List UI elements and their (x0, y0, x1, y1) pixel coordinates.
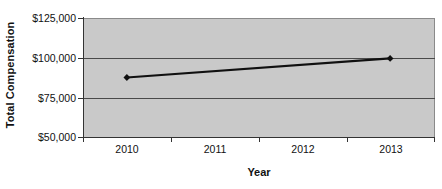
y-axis-title-text: Total Compensation (4, 22, 16, 129)
x-tick-label-2010: 2010 (97, 143, 157, 155)
x-axis-title: Year (83, 166, 435, 178)
gridline-75000 (84, 98, 435, 99)
y-tick-125000 (78, 18, 83, 19)
y-tick-label-50000: $50,000 (14, 131, 76, 143)
x-tick-label-2012: 2012 (273, 143, 333, 155)
y-tick-label-75000: $75,000 (14, 92, 76, 104)
y-tick-100000 (78, 58, 83, 59)
y-tick-label-100000: $100,000 (14, 52, 76, 64)
x-tick-3 (347, 137, 348, 142)
x-tick-2 (259, 137, 260, 142)
y-tick-label-125000: $125,000 (14, 12, 76, 24)
x-tick-label-2013: 2013 (361, 143, 421, 155)
y-axis-line (83, 17, 84, 138)
x-tick-0 (83, 137, 84, 142)
x-tick-label-2011: 2011 (185, 143, 245, 155)
plot-area (83, 18, 435, 138)
x-tick-1 (171, 137, 172, 142)
line-chart: Total Compensation $125,000 $100,000 $75… (0, 0, 442, 189)
x-tick-4 (434, 137, 435, 142)
gridline-100000 (84, 58, 435, 59)
y-tick-75000 (78, 98, 83, 99)
